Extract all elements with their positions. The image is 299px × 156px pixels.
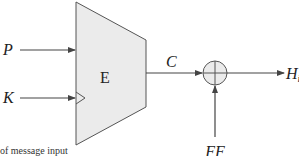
- encryption-block: [76, 2, 146, 145]
- output-label: Hi: [285, 65, 299, 84]
- diagram-canvas: E P K C Hi FF of message input: [0, 0, 299, 156]
- block-label: E: [100, 69, 110, 86]
- input-label-p: P: [2, 41, 13, 58]
- input-label-k: K: [2, 89, 15, 106]
- ciphertext-label: C: [166, 53, 177, 70]
- feed-forward-label: FF: [204, 143, 225, 156]
- caption-fragment: of message input: [0, 145, 68, 156]
- xor-operator-icon: [203, 61, 227, 85]
